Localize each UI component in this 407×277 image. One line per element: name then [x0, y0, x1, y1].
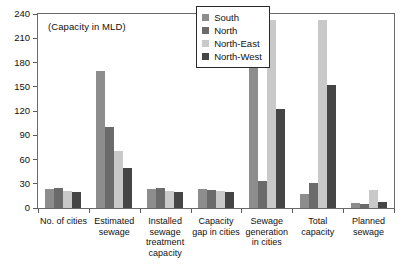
- bar: [54, 188, 63, 208]
- bar: [318, 20, 327, 208]
- y-axis-tick: 210: [14, 33, 37, 43]
- bar-group: [351, 14, 387, 208]
- y-axis-tick-label: 90: [19, 130, 33, 140]
- legend-swatch-icon: [202, 40, 209, 47]
- bar: [309, 183, 318, 208]
- y-axis-tick-label: 150: [14, 82, 33, 92]
- x-axis-category-line: Estimated: [89, 216, 140, 227]
- bar: [45, 189, 54, 208]
- x-axis-category-line: treatment: [140, 237, 191, 248]
- legend-item-south[interactable]: South: [202, 11, 262, 24]
- bar: [72, 192, 81, 208]
- x-axis-category-label: No. of cities: [38, 216, 89, 227]
- bar-group: [147, 14, 183, 208]
- bar: [207, 190, 216, 208]
- bar: [351, 203, 360, 208]
- x-axis-category-line: capacity: [140, 248, 191, 259]
- x-axis-category-line: No. of cities: [38, 216, 89, 227]
- x-axis-tick-mark: [89, 209, 90, 213]
- x-axis-category-line: Sewage: [241, 216, 292, 227]
- bar: [96, 71, 105, 208]
- legend-swatch-icon: [202, 53, 209, 60]
- x-axis-tick-mark: [394, 209, 395, 213]
- legend: SouthNorthNorth-EastNorth-West: [196, 6, 270, 68]
- x-axis-category-line: sewage: [89, 227, 140, 238]
- x-axis: No. of citiesEstimatedsewageInstalledsew…: [37, 209, 395, 277]
- legend-item-north[interactable]: North: [202, 24, 262, 37]
- y-axis-tick-label: 240: [14, 9, 33, 19]
- x-axis-category-line: Total: [292, 216, 343, 227]
- x-axis-category-label: Totalcapacity: [292, 216, 343, 237]
- x-axis-tick-mark: [191, 209, 192, 213]
- y-axis-tick: 150: [14, 82, 37, 92]
- y-axis-tick: 240: [14, 9, 37, 19]
- legend-item-label: South: [214, 11, 239, 24]
- x-axis-category-line: generation: [241, 227, 292, 238]
- bar: [258, 181, 267, 208]
- bar: [225, 192, 234, 208]
- legend-item-label: North: [214, 24, 237, 37]
- x-axis-category-label: Plannedsewage: [343, 216, 394, 237]
- bar-group: [96, 14, 132, 208]
- x-axis-tick-mark: [343, 209, 344, 213]
- y-axis-tick: 60: [19, 155, 37, 165]
- x-axis-category-label: Estimatedsewage: [89, 216, 140, 237]
- bar: [378, 202, 387, 208]
- legend-item-label: North-East: [214, 37, 259, 50]
- x-axis-tick-mark: [292, 209, 293, 213]
- bar: [147, 189, 156, 208]
- legend-item-label: North-West: [214, 50, 262, 63]
- bar: [249, 63, 258, 209]
- bar: [105, 127, 114, 208]
- bar: [156, 188, 165, 208]
- legend-item-north-east[interactable]: North-East: [202, 37, 262, 50]
- x-axis-category-line: Planned: [343, 216, 394, 227]
- legend-swatch-icon: [202, 27, 209, 34]
- bar: [276, 109, 285, 208]
- bar-group: [300, 14, 336, 208]
- bar: [300, 194, 309, 208]
- y-axis-tick: 90: [19, 130, 37, 140]
- bar: [369, 190, 378, 208]
- legend-swatch-icon: [202, 14, 209, 21]
- x-axis-category-line: Installed: [140, 216, 191, 227]
- y-axis-tick: 120: [14, 106, 37, 116]
- bar: [360, 204, 369, 208]
- x-axis-category-line: gap in cities: [191, 227, 242, 238]
- y-axis-tick-label: 30: [19, 179, 33, 189]
- x-axis-category-line: sewage: [140, 227, 191, 238]
- bar: [123, 168, 132, 208]
- x-axis-tick-mark: [140, 209, 141, 213]
- y-axis-tick: 30: [19, 179, 37, 189]
- bar: [165, 191, 174, 208]
- y-axis-tick: 180: [14, 58, 37, 68]
- y-axis-tick-label: 120: [14, 106, 33, 116]
- y-axis-tick-label: 0: [25, 203, 33, 213]
- bar: [114, 151, 123, 208]
- x-axis-category-line: Capacity: [191, 216, 242, 227]
- x-axis-category-label: Sewagegenerationin cities: [241, 216, 292, 248]
- bar: [63, 191, 72, 208]
- bar: [198, 189, 207, 208]
- y-axis-tick-label: 210: [14, 33, 33, 43]
- x-axis-category-line: capacity: [292, 227, 343, 238]
- bar-chart: 0306090120150180210240 (Capacity in MLD)…: [0, 0, 407, 277]
- bar-group: [45, 14, 81, 208]
- x-axis-category-label: Capacitygap in cities: [191, 216, 242, 237]
- legend-item-north-west[interactable]: North-West: [202, 50, 262, 63]
- x-axis-category-label: Installedsewagetreatmentcapacity: [140, 216, 191, 258]
- y-axis-tick-label: 180: [14, 58, 33, 68]
- x-axis-tick-mark: [241, 209, 242, 213]
- bar: [327, 85, 336, 208]
- x-axis-category-line: sewage: [343, 227, 394, 238]
- y-axis-tick-label: 60: [19, 155, 33, 165]
- bar: [216, 191, 225, 208]
- x-axis-category-line: in cities: [241, 237, 292, 248]
- x-axis-tick-mark: [38, 209, 39, 213]
- bar: [174, 192, 183, 208]
- y-axis-tick: 0: [25, 203, 37, 213]
- y-axis: 0306090120150180210240: [0, 0, 37, 209]
